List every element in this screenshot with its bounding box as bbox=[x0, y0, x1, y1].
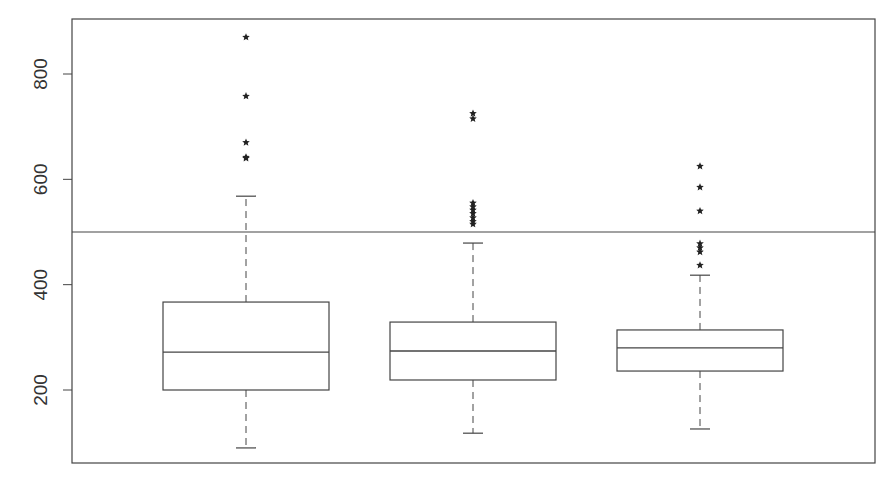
box-series bbox=[163, 33, 783, 448]
y-tick-label: 400 bbox=[30, 269, 51, 301]
outlier-star-icon bbox=[696, 183, 704, 190]
y-tick-label: 800 bbox=[30, 58, 51, 90]
outlier-star-icon bbox=[696, 162, 704, 169]
box-group-3 bbox=[617, 162, 783, 429]
y-tick-label: 200 bbox=[30, 374, 51, 406]
outlier-star-icon bbox=[242, 33, 250, 40]
outlier-star-icon bbox=[696, 261, 704, 268]
outlier-star-icon bbox=[242, 138, 250, 145]
y-axis: 200400600800 bbox=[30, 58, 72, 406]
box-group-1 bbox=[163, 33, 329, 448]
outlier-star-icon bbox=[242, 92, 250, 99]
boxplot-chart: 200400600800 bbox=[0, 0, 890, 478]
iqr-box bbox=[163, 302, 329, 390]
y-tick-label: 600 bbox=[30, 163, 51, 195]
chart-canvas: 200400600800 bbox=[0, 0, 890, 478]
box-group-2 bbox=[390, 110, 556, 434]
iqr-box bbox=[617, 330, 783, 371]
outlier-star-icon bbox=[696, 207, 704, 214]
outlier-star-icon bbox=[469, 115, 477, 122]
